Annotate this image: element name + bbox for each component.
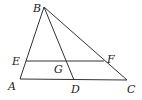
point-label-B: B bbox=[32, 2, 41, 15]
geometry-diagram: ABCDEFG A B C D E F G bbox=[0, 0, 142, 100]
point-label-G: G bbox=[54, 63, 63, 76]
point-label-E: E bbox=[11, 55, 20, 68]
segment-AB bbox=[20, 7, 44, 79]
point-label-A: A bbox=[7, 80, 16, 93]
point-label-D: D bbox=[70, 83, 80, 96]
point-label-F: F bbox=[106, 53, 115, 66]
point-label-C: C bbox=[127, 83, 136, 96]
triangle-figure: ABCDEFG bbox=[0, 0, 142, 100]
